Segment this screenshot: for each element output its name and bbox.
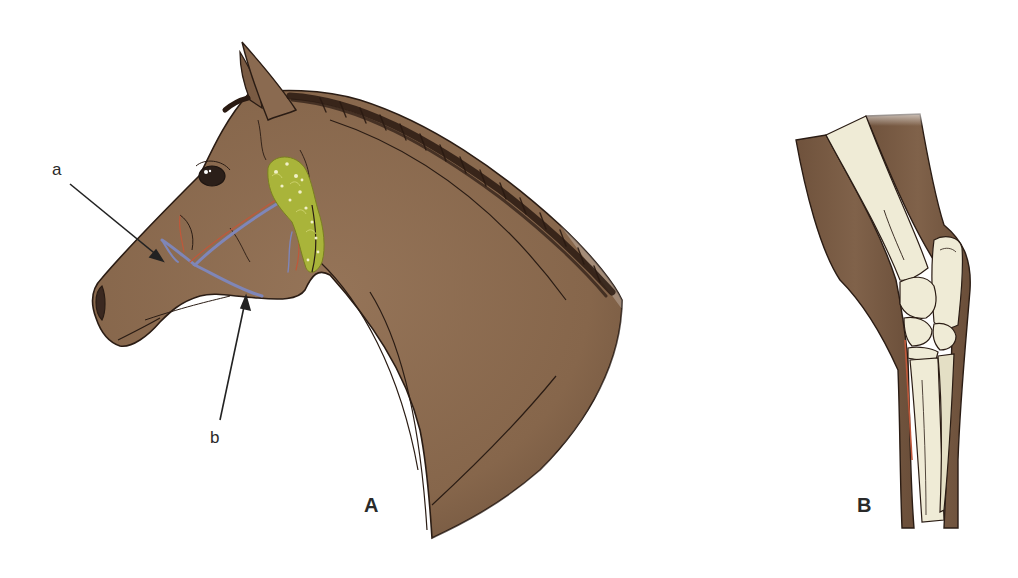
callout-label-a: a <box>52 160 61 180</box>
panel-b-carpus-illustration <box>0 0 1018 578</box>
panel-label-b: B <box>857 494 871 517</box>
callout-label-b: b <box>210 428 219 448</box>
cannon-bone <box>910 358 944 522</box>
accessory-carpal-bone <box>932 237 963 329</box>
panel-label-a: A <box>364 494 378 517</box>
carpal-bone-1 <box>900 277 936 318</box>
anatomy-figure: a b A B <box>0 0 1018 578</box>
carpal-bone-2 <box>904 318 932 347</box>
